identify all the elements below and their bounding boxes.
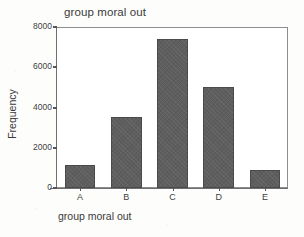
bars-layer: [57, 27, 288, 188]
bar-slot: [203, 27, 233, 188]
x-axis-title: group moral out: [58, 210, 132, 222]
bar-a[interactable]: [65, 165, 95, 188]
bar-c[interactable]: [157, 39, 187, 188]
y-axis-tick-label: 6000: [33, 61, 52, 71]
x-axis-category-label: C: [169, 192, 176, 203]
y-axis-tick-label: 4000: [33, 102, 52, 112]
bar-d[interactable]: [203, 87, 233, 188]
x-axis-category-label: D: [215, 192, 222, 203]
y-axis-tick-label: 0: [47, 182, 52, 192]
x-axis-line: [50, 188, 288, 189]
y-axis-title: Frequency: [6, 74, 18, 154]
bar-slot: [157, 27, 187, 188]
y-axis-tick-label: 2000: [33, 142, 52, 152]
x-axis-category-label: B: [123, 192, 129, 203]
bar-slot: [111, 27, 141, 188]
x-axis-category-label: A: [77, 192, 83, 203]
bar-b[interactable]: [111, 117, 141, 188]
y-axis-tick-label: 8000: [33, 21, 52, 31]
x-axis-tick-mark: [265, 188, 266, 191]
x-axis-category-label: E: [262, 192, 268, 203]
x-axis-tick-mark: [173, 188, 174, 191]
bar-e[interactable]: [250, 170, 280, 188]
bar-slot: [250, 27, 280, 188]
bar-chart-figure: group moral out 02000400060008000 Freque…: [0, 0, 304, 237]
x-axis-tick-mark: [126, 188, 127, 191]
x-axis-tick-mark: [219, 188, 220, 191]
x-axis-tick-mark: [80, 188, 81, 191]
chart-title: group moral out: [64, 6, 146, 19]
bar-slot: [65, 27, 95, 188]
